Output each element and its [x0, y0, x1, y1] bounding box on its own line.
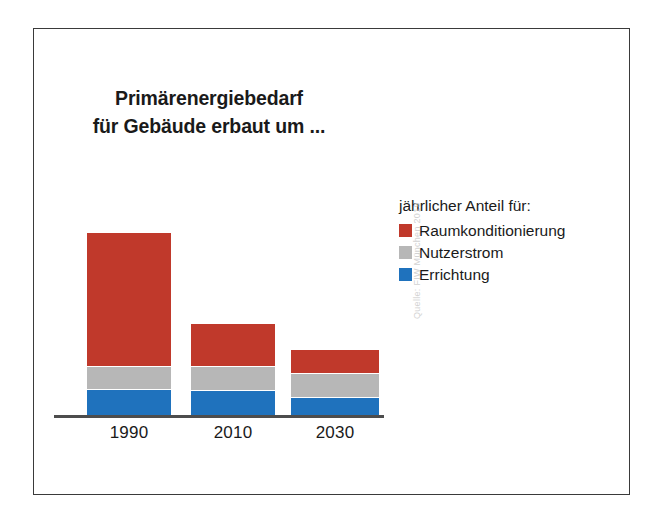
legend-swatch-nutzerstrom	[399, 246, 412, 259]
legend-swatch-errichtung	[399, 268, 412, 281]
source-note: Quelle: FIW München 2019	[412, 202, 422, 319]
bar-segment-nutzerstrom-1990[interactable]	[87, 366, 171, 389]
bar-stack-2030[interactable]	[291, 350, 379, 415]
bar-segment-nutzerstrom-2030[interactable]	[291, 373, 379, 397]
x-axis-label-2030: 2030	[291, 423, 379, 443]
bar-segment-errichtung-2010[interactable]	[191, 390, 275, 415]
bar-segment-errichtung-2030[interactable]	[291, 397, 379, 415]
bar-segment-raumkonditionierung-1990[interactable]	[87, 233, 171, 366]
bar-segment-nutzerstrom-2010[interactable]	[191, 366, 275, 390]
figure-frame: Primärenergiebedarf für Gebäude erbaut u…	[33, 28, 630, 495]
bar-stack-2010[interactable]	[191, 324, 275, 415]
bar-segment-raumkonditionierung-2010[interactable]	[191, 324, 275, 366]
bar-segment-raumkonditionierung-2030[interactable]	[291, 350, 379, 373]
bar-stack-1990[interactable]	[87, 233, 171, 415]
x-axis-baseline	[54, 415, 384, 418]
legend-title: jährlicher Anteil für:	[399, 197, 624, 215]
legend-item-nutzerstrom[interactable]: Nutzerstrom	[399, 242, 624, 263]
legend-item-errichtung[interactable]: Errichtung	[399, 264, 624, 285]
legend-label-errichtung: Errichtung	[419, 266, 490, 284]
legend-item-raumkonditionierung[interactable]: Raumkonditionierung	[399, 220, 624, 241]
bar-segment-errichtung-1990[interactable]	[87, 389, 171, 415]
legend: jährlicher Anteil für: Raumkonditionieru…	[399, 197, 624, 286]
legend-swatch-raumkonditionierung	[399, 224, 412, 237]
x-axis-label-2010: 2010	[191, 423, 275, 443]
x-axis-label-1990: 1990	[87, 423, 171, 443]
legend-label-raumkonditionierung: Raumkonditionierung	[419, 222, 565, 240]
legend-label-nutzerstrom: Nutzerstrom	[419, 244, 503, 262]
